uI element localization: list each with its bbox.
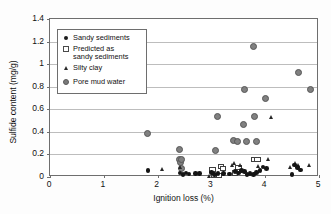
legend-label-line2: sandy sediments bbox=[73, 52, 128, 61]
data-point bbox=[178, 156, 185, 163]
gridline bbox=[50, 154, 317, 155]
x-tick-mark bbox=[319, 175, 320, 178]
data-point bbox=[187, 172, 192, 177]
y-tick-label: 0 bbox=[2, 172, 44, 180]
data-point bbox=[197, 171, 202, 176]
data-point bbox=[264, 166, 269, 171]
y-tick-label: 0.6 bbox=[2, 104, 44, 112]
data-point bbox=[216, 171, 221, 176]
data-point bbox=[146, 168, 151, 173]
x-tick-label: 4 bbox=[249, 180, 279, 188]
legend-label: Pore mud water bbox=[73, 78, 125, 86]
data-point bbox=[250, 43, 257, 50]
y-tick-label: 0.2 bbox=[2, 149, 44, 157]
x-tick-mark bbox=[265, 175, 266, 178]
data-point bbox=[266, 157, 270, 161]
y-tick-mark bbox=[47, 132, 50, 133]
y-tick-mark bbox=[47, 64, 50, 65]
y-tick-label: 0.4 bbox=[2, 127, 44, 135]
x-tick-label: 5 bbox=[303, 180, 331, 188]
data-point bbox=[212, 147, 219, 154]
filled-circle-small-icon bbox=[61, 34, 73, 43]
data-point bbox=[295, 69, 302, 76]
data-point bbox=[176, 146, 183, 153]
legend-item-pore-mud-water[interactable]: Pore mud water bbox=[61, 78, 143, 87]
x-tick-label: 2 bbox=[142, 180, 172, 188]
legend-item-predicted-as-sandy-sediments[interactable]: Predicted as sandy sediments bbox=[61, 45, 143, 62]
gridline bbox=[50, 109, 317, 110]
y-tick-mark bbox=[47, 42, 50, 43]
legend: Sandy sediments Predicted as sandy sedim… bbox=[57, 29, 147, 94]
data-point bbox=[262, 95, 269, 102]
data-point bbox=[240, 121, 247, 128]
data-point bbox=[307, 86, 314, 93]
data-point bbox=[253, 138, 260, 145]
x-tick-label: 1 bbox=[88, 180, 118, 188]
data-point bbox=[160, 167, 164, 171]
data-point bbox=[241, 86, 248, 93]
x-tick-label: 3 bbox=[195, 180, 225, 188]
legend-item-sandy-sediments[interactable]: Sandy sediments bbox=[61, 34, 143, 43]
y-tick-label: 1.4 bbox=[2, 14, 44, 22]
data-point bbox=[298, 168, 303, 173]
legend-item-silty-clay[interactable]: Silty clay bbox=[61, 64, 143, 73]
x-tick-mark bbox=[50, 175, 51, 178]
y-tick-mark bbox=[47, 87, 50, 88]
gridline bbox=[50, 132, 317, 133]
data-point bbox=[221, 171, 226, 176]
data-point bbox=[214, 113, 221, 120]
data-point bbox=[144, 130, 151, 137]
x-axis-title: Ignition loss (%) bbox=[49, 193, 318, 203]
x-tick-label: 0 bbox=[34, 180, 64, 188]
data-point bbox=[238, 163, 242, 167]
legend-label: Predicted as sandy sediments bbox=[73, 45, 128, 62]
data-point bbox=[227, 172, 232, 177]
data-point bbox=[234, 138, 241, 145]
y-tick-label: 0.8 bbox=[2, 82, 44, 90]
data-point bbox=[307, 163, 311, 167]
legend-label: Sandy sediments bbox=[73, 34, 130, 42]
x-tick-mark bbox=[104, 175, 105, 178]
data-point bbox=[251, 113, 258, 120]
data-point bbox=[232, 161, 236, 165]
x-tick-mark bbox=[158, 175, 159, 178]
y-tick-label: 1.2 bbox=[2, 37, 44, 45]
scatter-chart-figure: Sulfide content (mg/g) 0 0.2 0.4 0.6 0.8… bbox=[0, 0, 331, 214]
legend-label: Silty clay bbox=[73, 64, 102, 72]
y-tick-mark bbox=[47, 19, 50, 20]
y-tick-label: 1 bbox=[2, 59, 44, 67]
data-point bbox=[178, 165, 182, 169]
data-point bbox=[243, 138, 250, 145]
y-tick-mark bbox=[47, 109, 50, 110]
data-point bbox=[254, 157, 260, 162]
open-square-icon bbox=[61, 45, 73, 54]
filled-triangle-icon bbox=[61, 64, 73, 73]
data-point bbox=[269, 115, 273, 119]
y-tick-mark bbox=[47, 154, 50, 155]
filled-circle-large-icon bbox=[61, 78, 73, 87]
